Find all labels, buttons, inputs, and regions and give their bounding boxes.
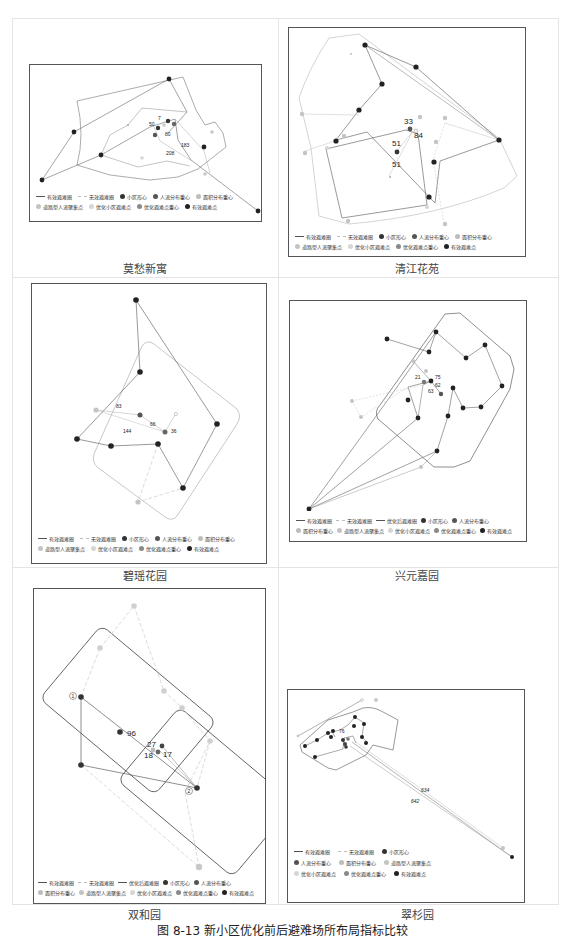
- legend-road-gathering: 道路型人流聚集点: [36, 203, 83, 210]
- legend-effective-circle: 有效避难圈: [36, 193, 72, 200]
- distance-label: 76: [339, 728, 345, 734]
- solid-line-icon: [118, 882, 127, 883]
- distance-label: 7: [158, 115, 161, 121]
- dashed-line-icon: [337, 236, 346, 237]
- legend-optimized-center: 优化避难点重心: [434, 527, 476, 534]
- dot-icon: [294, 871, 299, 876]
- legend-community-centroid: 小区形心: [421, 517, 448, 524]
- distance-label: 84: [414, 131, 423, 140]
- legend-community-centroid: 小区形心: [382, 848, 409, 855]
- dot-icon: [155, 536, 160, 541]
- dot-icon: [122, 536, 127, 541]
- distance-label: 51: [392, 139, 401, 148]
- panel-title: 双和园: [12, 906, 277, 922]
- dot-icon: [434, 528, 439, 533]
- legend: 有效避难圈 无效避难圈 小区形心 人流分布重心 面积分布重心 道路型人流聚集点 …: [36, 193, 258, 210]
- legend-effective-point: 有效避难点: [394, 870, 426, 877]
- dot-icon: [89, 204, 94, 209]
- legend: 有效避难圈 无效避难圈 小区形心 人流分布重心 面积分布重心 道路型人流聚集点 …: [38, 535, 264, 552]
- dot-icon: [196, 194, 201, 199]
- distance-label: 33: [404, 117, 413, 126]
- legend-optimized-point: 优化小区避难点: [388, 527, 430, 534]
- solid-line-icon: [296, 520, 305, 521]
- legend-optimized-circle: 优化后避难圈: [376, 517, 417, 524]
- distance-label: 634: [421, 787, 430, 793]
- dot-icon: [379, 234, 384, 239]
- dot-icon: [176, 890, 181, 895]
- dot-icon: [388, 528, 393, 533]
- solid-line-icon: [376, 520, 385, 521]
- dot-icon: [294, 860, 299, 865]
- legend-ineffective-circle: 无效避难圈: [78, 193, 114, 200]
- distance-label: 80: [165, 131, 171, 137]
- shuanghe-diagram: 1 2 96 27 17 18: [34, 589, 265, 879]
- legend-flow-center: 人流分布重心: [153, 193, 190, 200]
- diagram-frame: 83 66 144 36 有效避难圈 无效避难圈 小区形心 人流分布重心 面积分…: [31, 283, 267, 564]
- panel-mochou: 50 7 80 183 208 有效避难圈 无效避难圈 小区形心 人流分布重心 …: [12, 18, 277, 276]
- distance-label: 18: [144, 751, 153, 760]
- legend-optimized-point: 优化小区避难点: [91, 545, 133, 552]
- qingjiang-diagram: 33 84 51 51: [289, 28, 525, 256]
- legend: 有效避难圈 无效避难圈 小区形心 人流分布重心 面积分布重心 道路型人流聚集点 …: [295, 233, 523, 250]
- distance-label: 75: [435, 374, 441, 380]
- dot-icon: [348, 244, 353, 249]
- distance-label: 36: [171, 428, 177, 434]
- dot-icon: [421, 518, 426, 523]
- biyao-diagram: 83 66 144 36: [32, 284, 266, 534]
- legend-community-centroid: 小区形心: [379, 233, 406, 240]
- legend: 有效避难圈 无效避难圈 优化后避难圈 小区形心 人流分布重心 面积分布重心 道路…: [296, 517, 524, 534]
- legend-area-center: 面积分布重心: [455, 233, 492, 240]
- legend-ineffective-circle: 无效避难圈: [337, 233, 373, 240]
- legend-flow-center: 人流分布重心: [294, 859, 331, 866]
- panel-title: 莫愁新寓: [12, 260, 277, 276]
- legend-effective-circle: 有效避难圈: [294, 848, 330, 855]
- dot-icon: [382, 849, 387, 854]
- distance-label: 21: [415, 374, 421, 380]
- legend-ineffective-circle: 无效避难圈: [336, 517, 372, 524]
- legend-area-center: 面积分布重心: [198, 535, 235, 542]
- legend-effective-point: 有效避难点: [480, 527, 512, 534]
- legend-effective-circle: 有效避难圈: [295, 233, 331, 240]
- distance-label: 51: [392, 160, 401, 169]
- cuishan-diagram: 76 634 642: [288, 690, 524, 860]
- dot-icon: [120, 194, 125, 199]
- legend-effective-circle: 有效避难圈: [296, 517, 332, 524]
- legend-optimized-center: 优化避难点重心: [396, 243, 438, 250]
- diagram-frame: 50 7 80 183 208 有效避难圈 无效避难圈 小区形心 人流分布重心 …: [29, 64, 262, 222]
- dot-icon: [455, 234, 460, 239]
- panel-cuishan: 76 634 642 有效避难圈 无效避难圈 小区形心 人流分布重心 面积分布重…: [277, 566, 557, 903]
- distance-label: 208: [166, 150, 175, 156]
- dot-icon: [296, 528, 301, 533]
- dot-icon: [295, 244, 300, 249]
- legend-community-centroid: 小区形心: [120, 193, 147, 200]
- legend-optimized-center: 优化避难点重心: [176, 889, 218, 896]
- legend-flow-center: 人流分布重心: [452, 517, 489, 524]
- dot-icon: [412, 234, 417, 239]
- panel-biyao: 83 66 144 36 有效避难圈 无效避难圈 小区形心 人流分布重心 面积分…: [12, 276, 277, 566]
- legend-effective-circle: 有效避难圈: [38, 879, 74, 886]
- distance-label: 17: [163, 750, 172, 759]
- diagram-frame: 21 75 62 63 有效避难圈 无效避难圈 优化后避难圈 小区形心 人流分布…: [289, 300, 527, 542]
- dot-icon: [185, 204, 190, 209]
- distance-label: 83: [116, 403, 122, 409]
- dashed-line-icon: [336, 520, 345, 521]
- dot-icon: [91, 546, 96, 551]
- dot-icon: [394, 871, 399, 876]
- distance-label: 63: [428, 388, 434, 394]
- legend: 有效避难圈 无效避难圈 小区形心 人流分布重心 面积分布重心 道路型人流聚集点 …: [294, 848, 434, 877]
- legend-optimized-point: 优化小区避难点: [130, 889, 172, 896]
- dashed-line-icon: [78, 882, 87, 883]
- dot-icon: [344, 871, 349, 876]
- diagram-frame: 76 634 642 有效避难圈 无效避难圈 小区形心 人流分布重心 面积分布重…: [287, 689, 525, 903]
- legend-optimized-center: 优化避难点重心: [137, 203, 179, 210]
- legend-effective-circle: 有效避难圈: [38, 535, 74, 542]
- legend: 有效避难圈 无效避难圈 优化后避难圈 小区形心 人流分布重心 面积分布重心 道路…: [38, 879, 264, 896]
- dashed-line-icon: [338, 851, 347, 852]
- dot-icon: [384, 860, 389, 865]
- legend-road-gathering: 道路型人流聚集点: [38, 545, 85, 552]
- dot-icon: [187, 546, 192, 551]
- dot-icon: [38, 890, 43, 895]
- legend-effective-point: 有效避难点: [185, 203, 217, 210]
- legend-optimized-circle: 优化后避难圈: [118, 879, 159, 886]
- distance-label: 96: [127, 729, 136, 738]
